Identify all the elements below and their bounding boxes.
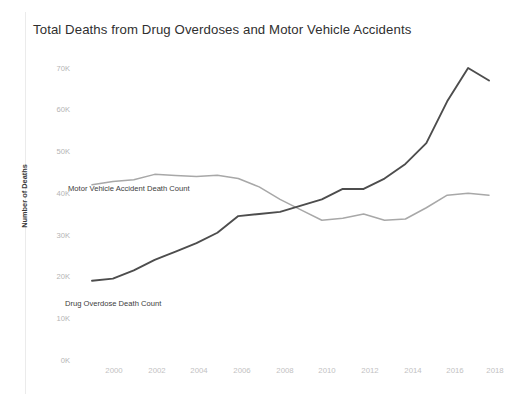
chart-card: Total Deaths from Drug Overdoses and Mot… <box>0 0 524 406</box>
series-lines <box>0 0 524 406</box>
line-drug-overdose <box>92 68 489 281</box>
line-motor-vehicle <box>92 174 489 220</box>
series-label-motor-vehicle: Motor Vehicle Accident Death Count <box>68 184 190 193</box>
series-label-drug-overdose: Drug Overdose Death Count <box>65 299 161 308</box>
plot-area: Number of Deaths 70K 60K 50K 40K 30K 20K… <box>0 0 524 406</box>
